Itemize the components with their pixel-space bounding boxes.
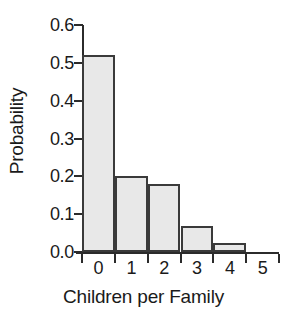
bar-series <box>82 25 279 254</box>
bar <box>213 243 246 252</box>
histogram-figure: Probability 0.00.10.20.30.40.50.6 012345… <box>0 0 287 322</box>
bar <box>115 176 148 252</box>
y-axis-tick-label: 0.3 <box>50 128 74 149</box>
x-axis-tick-label: 5 <box>258 258 268 279</box>
x-axis-tick-label: 2 <box>159 258 169 279</box>
x-axis-title: Children per Family <box>0 286 287 308</box>
y-axis-tick-label: 0.6 <box>50 15 74 36</box>
y-axis-tick-label: 0.5 <box>50 52 74 73</box>
x-axis-tick-label: 3 <box>192 258 202 279</box>
x-axis-tick-labels: 012345 <box>82 258 279 284</box>
y-axis-tick-labels: 0.00.10.20.30.40.50.6 <box>30 14 78 254</box>
x-axis-tick-label: 0 <box>94 258 104 279</box>
y-axis-tick-label: 0.0 <box>50 242 74 263</box>
plot-area <box>82 25 279 253</box>
y-axis-tick-label: 0.4 <box>50 90 74 111</box>
y-axis-tick-label: 0.2 <box>50 166 74 187</box>
bar <box>181 226 214 252</box>
y-axis-title: Probability <box>0 0 34 262</box>
x-axis-tick-label: 4 <box>225 258 235 279</box>
y-axis-tick-label: 0.1 <box>50 204 74 225</box>
x-axis-tick-label: 1 <box>126 258 136 279</box>
bar <box>82 55 115 252</box>
y-axis-title-text: Probability <box>6 88 28 175</box>
bar <box>148 184 181 252</box>
